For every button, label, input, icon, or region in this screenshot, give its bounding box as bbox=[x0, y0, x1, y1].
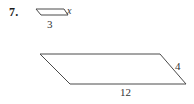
geometry-diagram bbox=[0, 0, 194, 104]
small-parallelogram-side-label-x: x bbox=[67, 5, 71, 17]
large-parallelogram-side-label-4: 4 bbox=[175, 60, 181, 72]
large-parallelogram-shape bbox=[40, 54, 186, 84]
figure-root: 7. x 3 4 12 bbox=[0, 0, 194, 104]
small-parallelogram-base-label-3: 3 bbox=[47, 18, 53, 30]
small-parallelogram-shape bbox=[36, 9, 68, 15]
large-parallelogram-base-label-12: 12 bbox=[120, 86, 131, 98]
